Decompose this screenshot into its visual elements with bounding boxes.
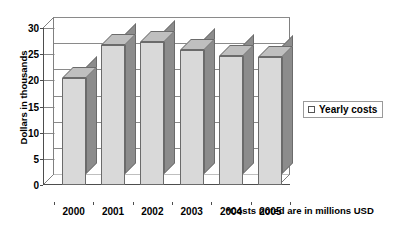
gridline xyxy=(53,17,290,18)
bar-front-face xyxy=(62,78,86,185)
x-axis-tick-label-2002: 2002 xyxy=(141,206,163,217)
bar-2005[interactable] xyxy=(258,46,282,185)
bar-side-face xyxy=(204,28,215,174)
bar-front-face xyxy=(180,50,204,185)
y-axis-back-line xyxy=(53,17,54,175)
bar-2004[interactable] xyxy=(219,45,243,185)
bar-front-face xyxy=(140,42,164,185)
x-axis-tick-label-2001: 2001 xyxy=(102,206,124,217)
bar-side-face xyxy=(243,34,254,174)
legend[interactable]: Yearly costs xyxy=(303,101,383,118)
bar-2001[interactable] xyxy=(101,34,125,185)
bar-front-face xyxy=(219,56,243,185)
bar-chart: Dollars in thousands 051015202530 200020… xyxy=(0,0,396,227)
footnote: *Costs noted are in millions USD xyxy=(226,205,374,216)
y-axis-tick-label: 15 xyxy=(28,101,39,112)
y-axis-tick-label: 10 xyxy=(28,127,39,138)
x-axis-tick-mark xyxy=(133,202,134,205)
plot-area: 051015202530 200020012002200320042005 xyxy=(43,17,290,185)
y-axis-tick-label: 5 xyxy=(33,153,39,164)
y-axis-tick-label: 0 xyxy=(33,180,39,191)
x-axis-tick-mark xyxy=(93,202,94,205)
bar-side-face xyxy=(164,20,175,174)
bar-side-face xyxy=(282,35,293,174)
legend-swatch-icon xyxy=(308,106,315,113)
bar-2000[interactable] xyxy=(62,67,86,185)
x-axis-tick-mark xyxy=(54,202,55,205)
x-axis-tick-label-2003: 2003 xyxy=(181,206,203,217)
bar-front-face xyxy=(101,45,125,185)
x-axis-tick-mark xyxy=(172,202,173,205)
bar-side-face xyxy=(125,23,136,174)
x-axis-tick-mark xyxy=(211,202,212,205)
y-axis-tick-label: 30 xyxy=(28,23,39,34)
x-axis-tick-label-2000: 2000 xyxy=(63,206,85,217)
y-axis-title: Dollars in thousands xyxy=(18,23,29,173)
legend-item-label: Yearly costs xyxy=(319,104,377,115)
y-axis-tick-label: 20 xyxy=(28,75,39,86)
y-axis-tick-label: 25 xyxy=(28,49,39,60)
y-axis-tick-mark xyxy=(40,185,43,186)
bar-2002[interactable] xyxy=(140,31,164,185)
y-axis-line xyxy=(43,28,44,185)
bar-2003[interactable] xyxy=(180,39,204,185)
bar-front-face xyxy=(258,57,282,185)
